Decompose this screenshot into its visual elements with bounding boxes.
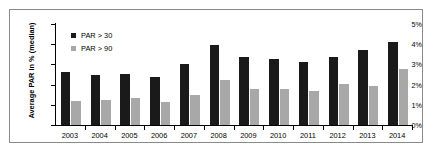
x-tick-mark	[353, 126, 354, 130]
x-axis-category-label: 2010	[270, 131, 286, 140]
bar	[329, 57, 339, 125]
bar	[190, 95, 200, 125]
chart-figure: Average PAR in % (median) 0%1%2%3%4%5% 2…	[0, 0, 434, 157]
bar	[399, 69, 409, 125]
x-tick-mark	[293, 126, 294, 130]
x-axis-category-label: 2005	[121, 131, 137, 140]
x-axis-category-label: 2011	[300, 131, 316, 140]
bar	[220, 80, 230, 125]
bar	[358, 50, 368, 125]
bar	[71, 101, 81, 125]
y-tick-mark	[51, 24, 55, 25]
bar	[339, 84, 349, 125]
x-axis-category-label: 2014	[389, 131, 405, 140]
bar	[61, 72, 71, 125]
x-axis-category-label: 2006	[151, 131, 167, 140]
bar	[120, 74, 130, 126]
x-tick-mark	[115, 126, 116, 130]
bar	[180, 64, 190, 125]
x-axis-category-label: 2004	[91, 131, 107, 140]
legend-swatch-icon-series-0	[71, 33, 76, 38]
legend-item-par-90: PAR > 90	[71, 43, 151, 54]
x-tick-mark	[382, 126, 383, 130]
bar	[388, 42, 398, 125]
x-tick-mark	[204, 126, 205, 130]
legend-label-series-0: PAR > 30	[81, 31, 112, 40]
y-tick-mark	[51, 85, 55, 86]
chart-legend: PAR > 30 PAR > 90	[71, 30, 151, 56]
x-axis-category-label: 2009	[240, 131, 256, 140]
bar	[91, 75, 101, 126]
bar	[309, 91, 319, 125]
bar	[280, 89, 290, 125]
x-tick-mark	[144, 126, 145, 130]
x-tick-mark	[174, 126, 175, 130]
bar	[250, 89, 260, 125]
legend-item-par-30: PAR > 30	[71, 30, 151, 41]
bar	[161, 102, 171, 125]
y-tick-mark	[51, 105, 55, 106]
bar	[299, 62, 309, 125]
bar	[269, 59, 279, 125]
legend-swatch-icon-series-1	[71, 46, 76, 51]
x-tick-mark	[263, 126, 264, 130]
bar	[369, 86, 379, 125]
x-axis-category-label: 2012	[329, 131, 345, 140]
bar	[131, 98, 141, 125]
x-axis-category-label: 2013	[359, 131, 375, 140]
x-tick-mark	[234, 126, 235, 130]
x-tick-mark	[412, 126, 413, 130]
y-tick-mark	[51, 64, 55, 65]
x-tick-mark	[85, 126, 86, 130]
bar	[239, 57, 249, 125]
y-axis-title: Average PAR in % (median)	[27, 19, 36, 123]
y-tick-mark	[51, 44, 55, 45]
y-tick-mark	[51, 125, 55, 126]
x-axis-category-label: 2008	[210, 131, 226, 140]
bar	[150, 77, 160, 125]
x-axis-category-label: 2007	[181, 131, 197, 140]
legend-label-series-1: PAR > 90	[81, 44, 112, 53]
x-axis-category-label: 2003	[62, 131, 78, 140]
bar	[210, 45, 220, 125]
chart-plot-frame: Average PAR in % (median) 0%1%2%3%4%5% 2…	[9, 9, 423, 143]
bar	[101, 100, 111, 125]
x-tick-mark	[323, 126, 324, 130]
